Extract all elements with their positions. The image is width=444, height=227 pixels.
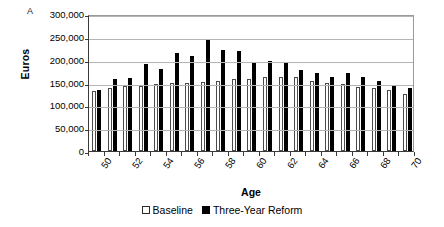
legend-label-three-year-reform: Three-Year Reform	[213, 204, 302, 216]
x-axis-tick-label: 64	[317, 156, 331, 170]
legend-item-three-year-reform: Three-Year Reform	[202, 204, 302, 216]
panel-letter: A	[27, 6, 33, 16]
x-axis-tick-label: 52	[130, 156, 144, 170]
x-axis-tick-label: 68	[379, 156, 393, 170]
bar-baseline	[108, 88, 112, 151]
x-axis-title: Age	[88, 186, 414, 198]
y-axis-tick-label: 200,000	[50, 56, 84, 66]
plot-area	[88, 15, 414, 152]
bar-three-year-reform	[361, 77, 365, 151]
bar-three-year-reform	[392, 86, 396, 151]
y-axis-tick-label: 100,000	[50, 101, 84, 111]
gridline	[89, 130, 413, 131]
bar-baseline	[403, 94, 407, 151]
gridline	[89, 16, 413, 17]
bar-baseline	[325, 83, 329, 152]
x-axis-tick-label: 66	[348, 156, 362, 170]
legend-item-baseline: Baseline	[142, 204, 193, 216]
y-axis-tick-label: 50,000	[55, 124, 84, 134]
y-axis-title: Euros	[19, 34, 31, 94]
bar-baseline	[247, 79, 251, 151]
bar-baseline	[232, 79, 236, 151]
bar-three-year-reform	[206, 40, 210, 151]
bar-baseline	[154, 84, 158, 151]
bar-three-year-reform	[221, 50, 225, 151]
x-axis-tick-labels: 5052545658606264666870	[88, 156, 414, 182]
open-square-icon	[142, 206, 150, 214]
y-axis-tick-labels: 300,000250,000200,000150,000100,00050,00…	[34, 9, 84, 159]
bar-three-year-reform	[159, 69, 163, 151]
bar-baseline	[372, 88, 376, 151]
bar-baseline	[123, 86, 127, 151]
y-axis-tick-mark	[85, 85, 89, 86]
bar-baseline	[356, 87, 360, 151]
bar-baseline	[310, 81, 314, 151]
gridline	[89, 39, 413, 40]
gridline	[89, 107, 413, 108]
bar-three-year-reform	[330, 77, 334, 151]
y-axis-tick-label: 150,000	[50, 79, 84, 89]
bar-baseline	[279, 77, 283, 151]
bar-three-year-reform	[113, 79, 117, 151]
x-axis-tick-label: 56	[192, 156, 206, 170]
y-axis-tick-label: 300,000	[50, 10, 84, 20]
y-axis-tick-label: 0	[79, 147, 84, 157]
bar-three-year-reform	[237, 51, 241, 151]
y-axis-tick-label: 250,000	[50, 33, 84, 43]
bar-baseline	[387, 90, 391, 151]
gridline	[89, 85, 413, 86]
y-axis-tick-mark	[85, 16, 89, 17]
x-axis-tick-label: 58	[223, 156, 237, 170]
bar-baseline	[185, 83, 189, 152]
y-axis-tick-mark	[85, 62, 89, 63]
x-axis-tick-label: 70	[410, 156, 424, 170]
bar-baseline	[201, 82, 205, 151]
chart-figure: A Euros 300,000250,000200,000150,000100,…	[0, 0, 444, 227]
bar-baseline	[92, 91, 96, 151]
gridline	[89, 62, 413, 63]
bar-baseline	[263, 77, 267, 151]
bar-baseline	[294, 77, 298, 151]
chart-legend: Baseline Three-Year Reform	[0, 204, 444, 216]
bar-three-year-reform	[408, 88, 412, 151]
bar-baseline	[170, 83, 174, 151]
bar-three-year-reform	[377, 81, 381, 151]
y-axis-tick-mark	[85, 107, 89, 108]
bar-baseline	[341, 84, 345, 151]
filled-square-icon	[202, 206, 210, 214]
y-axis-tick-mark	[85, 39, 89, 40]
x-axis-tick-label: 54	[161, 156, 175, 170]
x-axis-tick-label: 50	[99, 156, 113, 170]
bar-three-year-reform	[128, 78, 132, 151]
y-axis-tick-mark	[85, 130, 89, 131]
bar-baseline	[216, 81, 220, 151]
bar-three-year-reform	[190, 56, 194, 151]
legend-label-baseline: Baseline	[153, 204, 193, 216]
bar-three-year-reform	[175, 53, 179, 151]
bar-three-year-reform	[299, 70, 303, 151]
x-axis-tick-label: 62	[286, 156, 300, 170]
x-axis-tick-label: 60	[255, 156, 269, 170]
bar-baseline	[139, 86, 143, 151]
bar-three-year-reform	[97, 90, 101, 151]
